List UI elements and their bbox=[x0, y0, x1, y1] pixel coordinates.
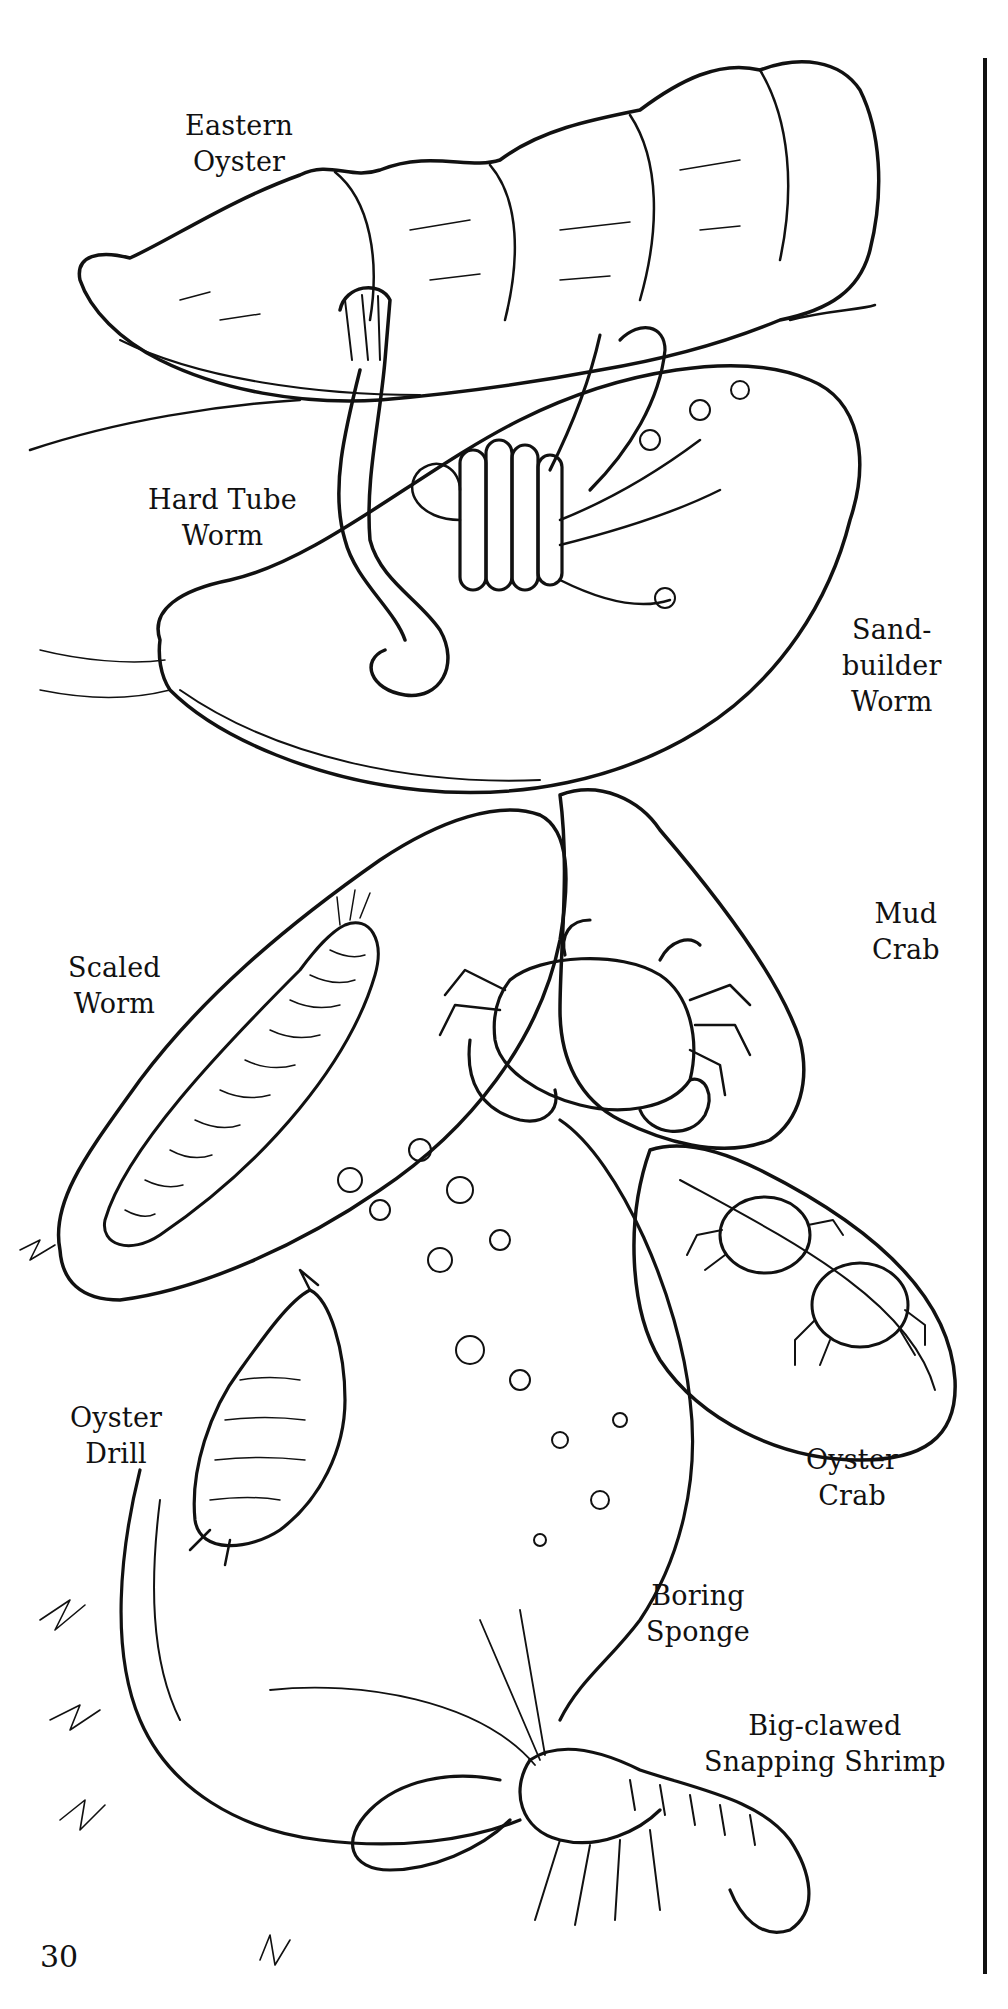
label-mud-crab: Mud Crab bbox=[872, 896, 940, 968]
eastern-oyster-drawing bbox=[30, 62, 879, 450]
label-line: Worm bbox=[68, 986, 161, 1022]
label-line: builder bbox=[842, 648, 942, 684]
label-oyster-crab: Oyster Crab bbox=[806, 1442, 898, 1514]
label-boring-sponge: Boring Sponge bbox=[646, 1578, 750, 1650]
label-line: Mud bbox=[872, 896, 940, 932]
page-number: 30 bbox=[40, 1940, 78, 1974]
label-line: Sponge bbox=[646, 1614, 750, 1650]
boring-sponge-drawing bbox=[121, 1120, 692, 1844]
label-oyster-drill: Oyster Drill bbox=[70, 1400, 162, 1472]
vertical-rule-divider bbox=[983, 58, 987, 1974]
label-eastern-oyster: Eastern Oyster bbox=[185, 108, 293, 180]
middle-shells-drawing bbox=[58, 790, 955, 1460]
label-line: Crab bbox=[806, 1478, 898, 1514]
label-line: Crab bbox=[872, 932, 940, 968]
label-line: Big-clawed bbox=[704, 1708, 946, 1744]
label-sand-builder-worm: Sand- builder Worm bbox=[842, 612, 942, 720]
label-line: Worm bbox=[842, 684, 942, 720]
label-line: Worm bbox=[148, 518, 297, 554]
label-line: Eastern bbox=[185, 108, 293, 144]
label-line: Oyster bbox=[185, 144, 293, 180]
label-line: Boring bbox=[646, 1578, 750, 1614]
sand-builder-worm-drawing bbox=[412, 328, 749, 608]
label-line: Drill bbox=[70, 1436, 162, 1472]
label-line: Oyster bbox=[70, 1400, 162, 1436]
illustration-page: Eastern Oyster Hard Tube Worm Sand- buil… bbox=[0, 0, 1008, 2009]
label-scaled-worm: Scaled Worm bbox=[68, 950, 161, 1022]
label-line: Sand- bbox=[842, 612, 942, 648]
label-hard-tube-worm: Hard Tube Worm bbox=[148, 482, 297, 554]
label-line: Oyster bbox=[806, 1442, 898, 1478]
label-line: Snapping Shrimp bbox=[704, 1744, 946, 1780]
label-line: Hard Tube bbox=[148, 482, 297, 518]
label-snapping-shrimp: Big-clawed Snapping Shrimp bbox=[704, 1708, 946, 1780]
oyster-crabs-drawing bbox=[687, 1197, 925, 1365]
hard-tube-worm-drawing bbox=[339, 288, 448, 696]
scaled-worm-drawing bbox=[104, 890, 378, 1246]
oyster-drill-drawing bbox=[190, 1270, 345, 1565]
mud-crab-drawing bbox=[440, 920, 750, 1131]
label-line: Scaled bbox=[68, 950, 161, 986]
lower-shell-drawing bbox=[40, 366, 860, 793]
